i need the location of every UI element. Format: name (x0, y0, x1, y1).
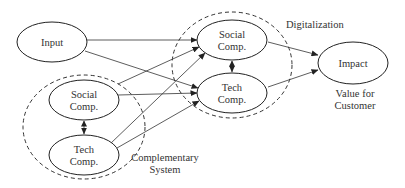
node-digitalization-tech: Tech Comp. (197, 73, 267, 113)
dg-social-label-line1: Social (219, 29, 245, 40)
node-complementary-social: Social Comp. (49, 80, 119, 120)
edge-dg-tech-to-impact (268, 70, 318, 87)
node-input: Input (17, 22, 87, 62)
edge-dg-social-to-impact (268, 42, 318, 55)
complementary-label-line2: System (150, 164, 181, 175)
dg-tech-label-line1: Tech (222, 82, 243, 93)
cs-tech-label-line1: Tech (74, 144, 95, 155)
cs-social-ellipse (49, 80, 119, 120)
impact-label: Impact (338, 58, 367, 69)
edge-cs-tech-to-dg-tech (117, 101, 199, 148)
diagram-canvas: Input Social Comp. Tech Comp. Social Com… (0, 0, 405, 188)
dg-tech-label-line2: Comp. (218, 94, 246, 105)
cs-social-label-line2: Comp. (70, 101, 98, 112)
dg-social-label-line2: Comp. (218, 41, 246, 52)
node-complementary-tech: Tech Comp. (49, 135, 119, 175)
value-annotation-line2: Customer (335, 100, 376, 111)
cs-tech-label-line2: Comp. (70, 156, 98, 167)
node-digitalization-social: Social Comp. (197, 20, 267, 60)
dg-tech-ellipse (197, 73, 267, 113)
cs-tech-ellipse (49, 135, 119, 175)
cs-social-label-line1: Social (71, 89, 97, 100)
digitalization-label: Digitalization (286, 19, 344, 30)
complementary-label-line1: Complementary (131, 152, 199, 163)
node-impact: Impact (318, 42, 388, 84)
dg-social-ellipse (197, 20, 267, 60)
edge-cs-tech-to-dg-social (110, 53, 205, 144)
input-label: Input (41, 37, 63, 48)
value-annotation-line1: Value for (336, 88, 375, 99)
